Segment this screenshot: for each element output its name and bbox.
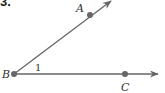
point-a [87,12,93,18]
angle-diagram: 3. B A C 1 [0,0,165,93]
label-b: B [1,68,10,81]
label-a: A [75,2,84,15]
point-c [122,71,128,77]
problem-number: 3. [0,0,11,9]
point-b [11,71,17,77]
ray-ba [14,1,111,74]
label-c: C [121,81,130,93]
angle-label-1: 1 [35,62,41,73]
